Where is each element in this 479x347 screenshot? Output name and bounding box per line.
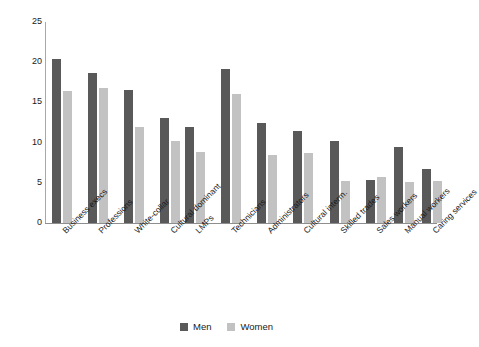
x-axis-label: White-collar: [133, 197, 171, 235]
x-axis-label: Professions: [97, 198, 134, 235]
x-axis-label: Technicians: [230, 198, 267, 235]
chart-legend: MenWomen: [0, 322, 453, 332]
legend-label: Women: [240, 322, 273, 332]
legend-swatch-icon: [227, 323, 235, 331]
legend-item-men[interactable]: Men: [180, 322, 211, 332]
legend-item-women[interactable]: Women: [227, 322, 273, 332]
x-axis-label: LMPs: [194, 214, 215, 235]
legend-label: Men: [193, 322, 211, 332]
legend-swatch-icon: [180, 323, 188, 331]
